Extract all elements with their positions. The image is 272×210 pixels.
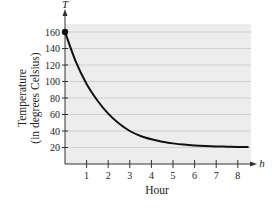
x-axis-variable: h bbox=[259, 157, 265, 169]
x-tick-label: 7 bbox=[214, 170, 219, 181]
y-tick-label: 120 bbox=[45, 60, 60, 71]
temperature-chart: 20406080100120140160 12345678 T h Hour T… bbox=[0, 0, 272, 210]
x-tick-label: 2 bbox=[106, 170, 111, 181]
x-axis-arrow-icon bbox=[250, 162, 257, 167]
y-axis-arrow-icon bbox=[63, 9, 68, 16]
x-tick-label: 1 bbox=[84, 170, 89, 181]
y-tick-label: 20 bbox=[50, 142, 60, 153]
y-tick-label: 160 bbox=[45, 27, 60, 38]
y-axis-label-line2: (in degrees Celsius) bbox=[29, 52, 42, 144]
x-tick-label: 3 bbox=[127, 170, 132, 181]
y-tick-label: 80 bbox=[50, 93, 60, 104]
x-tick-label: 8 bbox=[235, 170, 240, 181]
start-point-marker bbox=[62, 29, 68, 35]
y-tick-label: 40 bbox=[50, 126, 60, 137]
y-axis-label-line1: Temperature bbox=[16, 69, 29, 127]
y-axis-variable: T bbox=[62, 0, 69, 10]
y-tick-label: 100 bbox=[45, 76, 60, 87]
y-tick-label: 140 bbox=[45, 43, 60, 54]
x-tick-label: 5 bbox=[171, 170, 176, 181]
x-tick-label: 6 bbox=[192, 170, 197, 181]
y-tick-label: 60 bbox=[50, 109, 60, 120]
x-axis-label: Hour bbox=[145, 184, 169, 196]
x-tick-label: 4 bbox=[149, 170, 154, 181]
